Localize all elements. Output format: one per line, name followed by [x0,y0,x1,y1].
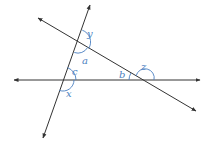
angle-arc-b [129,73,131,80]
angle-label-a: a [82,55,88,66]
angle-label-c: c [72,66,78,77]
geometry-diagram: y a c x b z [0,0,208,145]
angle-label-x: x [66,88,72,99]
diagonal-line [38,18,196,111]
angle-label-b: b [119,69,125,80]
angle-label-y: y [86,28,93,39]
angle-arc-a [74,48,87,54]
angle-label-z: z [140,61,147,72]
